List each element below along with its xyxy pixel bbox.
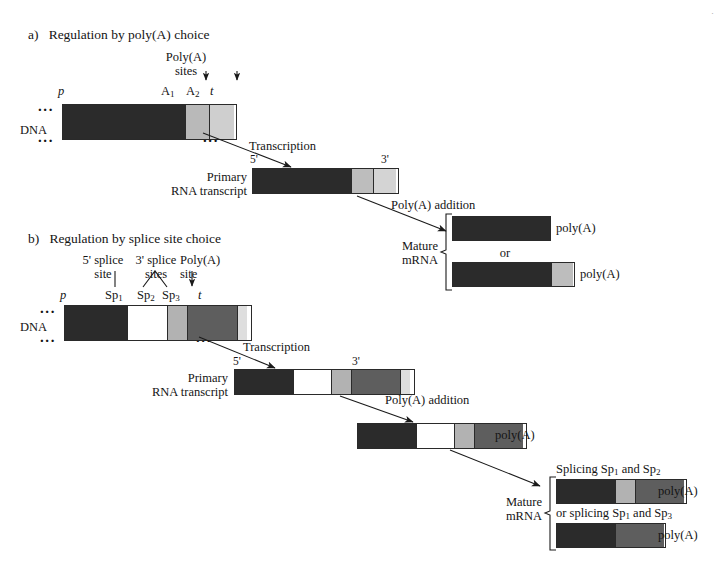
panel-a-mature-long-segment-coding-exon [453,263,551,286]
panel-a-transcription-label: Transcription [249,139,316,153]
panel-a-heading: a) Regulation by poly(A) choice [28,27,209,42]
polya-sites-line2: sites [141,64,231,78]
panel-a-primary-transcript-bar [252,168,399,194]
panel-a-label: a) [28,27,39,42]
panel-a-dna-segment-polyA1-region [185,105,209,139]
panel-b-polya-line2: site [180,267,220,281]
panel-b-mature-sp1-sp2-polya-label: poly(A) [658,484,698,498]
splicing-sp1-sp2-caption: Splicing Sp1 and Sp2 [556,462,661,477]
panel-a-mature-mrna-short-bar [452,216,551,241]
panel-b-transcript-segment-polyA-region [400,370,410,394]
panel-a-transcript-row-label: Primary RNA transcript [171,170,247,198]
panel-a-transcript-label-line1: Primary [171,170,247,184]
panel-b-dna-bar [64,305,252,341]
panel-a-terminator-label: t [210,84,213,98]
panel-a-mature-short-polya-label: poly(A) [556,221,596,235]
panel-b-transcript-segment-exon1 [235,370,293,394]
panel-b-dna-segment-exon3 [187,306,237,340]
panel-b-mature-sp1-sp3-segment-exon3 [615,524,664,547]
panel-b-transcript-segment-intron [293,370,331,394]
splicing-sp1-sp3-caption: or splicing Sp1 and Sp3 [556,506,672,521]
panel-a-mature-long-segment-extended-region [551,263,573,286]
panel-b-transcript-row-label: Primary RNA transcript [152,371,228,399]
panel-b-polyadenylated-polya-label: poly(A) [495,428,535,442]
panel-b-sp1-label: Sp1 [105,288,123,303]
panel-a-mature-short-segment-coding-exon [453,217,550,240]
panel-a-dna-bar [62,104,237,140]
panel-b-dna-segment-exon1 [65,306,127,340]
panel-a-polya-addition-label: Poly(A) addition [391,198,475,212]
panel-b-mature-label-line1: Mature [506,495,542,509]
panel-a-promoter-label: p [58,84,64,98]
panel-a-title: Regulation by poly(A) choice [49,27,210,42]
panel-a-mature-long-polya-label: poly(A) [580,267,620,281]
panel-a-transcript-segment-polyA2-region [373,169,396,193]
panel-b-primary-transcript-bar [234,369,415,395]
figure-canvas: a) Regulation by poly(A) choice Poly(A) … [0,0,724,569]
panel-b-mature-sp1-sp3-bar [556,523,666,548]
panel-a-transcript-segment-coding-exon [253,169,351,193]
panel-b-transcript-segment-exon3 [351,370,400,394]
panel-b-mature-sp1-sp3-polya-label: poly(A) [658,528,698,542]
panel-b-sp2-label: Sp2 [137,288,155,303]
panel-b-mature-sp1-sp3-segment-exon1 [557,524,615,547]
panel-b-mature-sp1-sp2-segment-exon2-alt [615,480,635,503]
panel-b-promoter-label: p [60,288,66,302]
polya-sites-line1: Poly(A) [141,50,231,64]
panel-a-or-label: or [500,246,510,260]
panel-b-mature-sp1-sp2-segment-exon1 [557,480,615,503]
panel-a-transcript-segment-polyA1-region [351,169,373,193]
panel-b-sp3-label: Sp3 [162,288,180,303]
panel-b-heading: b) Regulation by splice site choice [28,231,221,246]
panel-b-label: b) [28,231,39,246]
panel-a-mature-mrna-long-bar [452,262,575,287]
panel-a-site-a1-label: A1 [161,84,175,99]
panel-a-dna-left-dots-top: ... [38,99,54,114]
panel-b-transcript-segment-exon2-alt [331,370,351,394]
panel-a-mature-row-label: Mature mRNA [402,239,438,267]
panel-a-transcript-5prime: 5' [250,153,258,166]
panel-b-polya-line1: Poly(A) [180,253,220,267]
panel-b-polyadenylated-segment-exon2-alt [454,424,474,448]
panel-b-polyadenylated-segment-intron [416,424,454,448]
panel-a-transcript-3prime: 3' [381,153,389,166]
panel-b-polyadenylated-segment-exon1 [358,424,416,448]
panel-a-transcript-label-line2: RNA transcript [171,184,247,198]
panel-b-transcript-label-line2: RNA transcript [152,385,228,399]
mature-mrna-bracket-b [545,477,556,550]
panel-b-dna-segment-exon2-alt [167,306,187,340]
panel-b-dna-segment-intron [127,306,167,340]
panel-b-transcript-3prime: 3' [352,355,360,368]
panel-b-dna-left-dots-bottom: ... [40,330,56,345]
scan-artifact: · [711,8,714,18]
mature-mrna-bracket-a [441,214,452,290]
panel-b-transcript-label-line1: Primary [152,371,228,385]
panel-b-transcript-5prime: 5' [233,355,241,368]
panel-b-dna-left-dots-top: ... [40,301,56,316]
panel-b-dna-segment-polyA-region [237,306,247,340]
panel-b-transcription-label: Transcription [243,340,310,354]
panel-a-dna-left-dots-bottom: ... [38,130,54,145]
panel-a-mature-label-line1: Mature [402,239,438,253]
polya-sites-callout: Poly(A) sites [141,50,231,78]
splicing-arrow-b [450,450,540,486]
panel-b-polya-site-callout: Poly(A) site [180,253,220,281]
panel-a-dna-segment-coding-exon [63,105,185,139]
panel-b-polya-addition-label: Poly(A) addition [385,393,469,407]
panel-a-dna-segment-polyA2-region [209,105,234,139]
panel-b-title: Regulation by splice site choice [49,231,221,246]
panel-a-site-a2-label: A2 [186,84,200,99]
panel-a-mature-label-line2: mRNA [402,253,438,267]
panel-b-mature-label-line2: mRNA [506,509,542,523]
panel-b-mature-row-label: Mature mRNA [506,495,542,523]
